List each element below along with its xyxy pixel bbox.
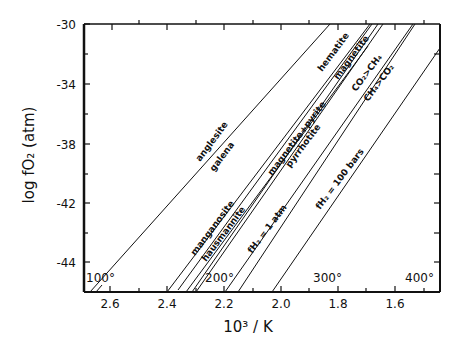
temperature-markers [96, 285, 102, 292]
svg-text:2.2: 2.2 [214, 297, 233, 311]
temperature-labels: 100° 200° 300° 400° [86, 271, 434, 285]
svg-text:100°: 100° [86, 271, 115, 285]
svg-text:magnetite+pyrite: magnetite+pyrite [266, 99, 328, 177]
svg-text:-42: -42 [56, 197, 76, 211]
svg-text:300°: 300° [313, 271, 342, 285]
svg-text:fH₂ = 100 bars: fH₂ = 100 bars [314, 147, 366, 212]
svg-text:-30: -30 [56, 18, 76, 32]
svg-text:-38: -38 [56, 138, 76, 152]
svg-text:2.0: 2.0 [271, 297, 290, 311]
svg-text:2.4: 2.4 [157, 297, 176, 311]
svg-text:400°: 400° [405, 271, 434, 285]
svg-text:-34: -34 [56, 78, 76, 92]
svg-text:2.6: 2.6 [100, 297, 119, 311]
svg-text:1.6: 1.6 [385, 297, 404, 311]
svg-text:1.8: 1.8 [328, 297, 347, 311]
x-tick-labels: 2.6 2.4 2.2 2.0 1.8 1.6 [100, 297, 404, 311]
y-tick-labels: -30 -34 -38 -42 -44 [56, 18, 76, 270]
y-axis-label: log fO₂ (atm) [20, 107, 38, 204]
x-axis-label: 10³ / K [223, 318, 274, 336]
svg-text:-44: -44 [56, 256, 76, 270]
chart: -30 -34 -38 -42 -44 2.6 2.4 2.2 2.0 1.8 … [0, 0, 468, 348]
